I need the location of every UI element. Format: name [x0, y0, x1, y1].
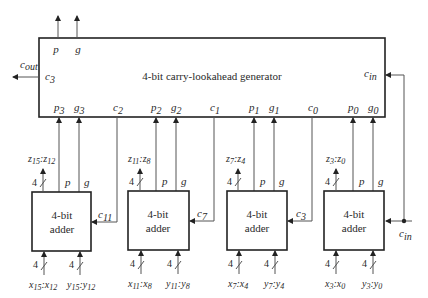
- y-input-label: y15:y12: [66, 279, 95, 292]
- adder-label-line1: 4-bit: [247, 208, 268, 220]
- adder-block-3-0: 4-bit adder z3:z0 4 p g 4 4 x3:x0 y3:y0: [324, 153, 384, 291]
- adder-label-line2: adder: [146, 222, 171, 234]
- y-input-label: y11:y8: [165, 278, 190, 291]
- y-bus-width-label: 4: [362, 258, 367, 269]
- x-input-label: x3:x0: [324, 278, 345, 291]
- cin-input-label: cin: [399, 227, 412, 242]
- y-input-label: y3:y0: [361, 278, 382, 291]
- z-output-label: z11:z8: [127, 153, 151, 166]
- adder-label-line2: adder: [50, 223, 75, 235]
- z-output-label: z7:z4: [225, 153, 245, 166]
- adder-p-label: p: [161, 175, 168, 187]
- gen-p-label: p: [52, 43, 59, 55]
- z-output-label: z3:z0: [325, 153, 345, 166]
- bus-width-label: 4: [227, 176, 232, 187]
- x-input-label: x11:x8: [127, 278, 152, 291]
- y-bus-width-label: 4: [264, 258, 269, 269]
- y-bus-width-label: 4: [69, 259, 74, 270]
- c7-wire: [190, 117, 214, 221]
- bus-width-label: 4: [32, 177, 37, 188]
- adder-label-line2: adder: [342, 222, 367, 234]
- adder-label-line1: 4-bit: [148, 208, 169, 220]
- adder-block-7-4: 4-bit adder z7:z4 4 p g c3 4 4 x7:x4 y7:…: [225, 153, 306, 291]
- adder-box: [128, 191, 189, 250]
- gen-g-label: g: [75, 43, 81, 55]
- adder-box: [227, 191, 287, 250]
- cin-junction-dot-icon: [402, 219, 406, 223]
- c3-wire: [288, 117, 312, 221]
- adder-box: [32, 192, 91, 251]
- adder-p-label: p: [259, 175, 266, 187]
- adder-label-line2: adder: [245, 222, 270, 234]
- x-bus-width-label: 4: [325, 258, 330, 269]
- adder-g-label: g: [181, 175, 187, 187]
- cout-label: cout: [20, 58, 38, 72]
- carry-lookahead-adder-diagram: 4-bit carry-lookahead generator p g cout…: [0, 0, 428, 298]
- z-output-label: z15:z12: [27, 153, 55, 166]
- carry-in-label: c7: [197, 207, 208, 222]
- adder-box: [324, 191, 384, 250]
- x-bus-width-label: 4: [130, 258, 135, 269]
- adder-label-line1: 4-bit: [344, 208, 365, 220]
- carry-in-label: c11: [98, 208, 112, 223]
- adder-label-line1: 4-bit: [52, 209, 73, 221]
- bus-width-label: 4: [129, 176, 134, 187]
- x-input-label: x7:x4: [227, 278, 248, 291]
- x-input-label: x15:x12: [28, 279, 57, 292]
- y-bus-width-label: 4: [167, 258, 172, 269]
- c11-wire: [92, 117, 117, 222]
- cin-feed-wire: [386, 75, 404, 221]
- x-bus-width-label: 4: [33, 259, 38, 270]
- adder-p-label: p: [358, 175, 365, 187]
- adder-g-label: g: [84, 176, 90, 188]
- adder-g-label: g: [378, 175, 384, 187]
- carry-in-label: c3: [296, 207, 306, 222]
- generator-label: 4-bit carry-lookahead generator: [142, 70, 282, 82]
- adder-p-label: p: [64, 176, 71, 188]
- adder-block-11-8: 4-bit adder z11:z8 4 p g c7 4 4 x11:x8 y…: [127, 153, 208, 291]
- bus-width-label: 4: [325, 176, 330, 187]
- adder-g-label: g: [279, 175, 285, 187]
- y-input-label: y7:y4: [263, 278, 284, 291]
- x-bus-width-label: 4: [228, 258, 233, 269]
